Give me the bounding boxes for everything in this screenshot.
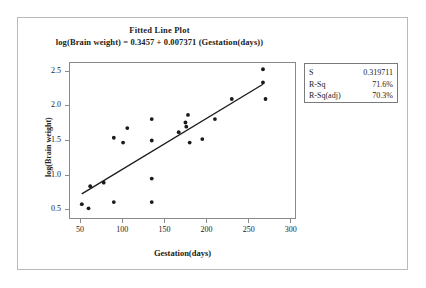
data-point — [150, 200, 154, 204]
y-axis-tick-label: 2.0 — [35, 100, 61, 109]
x-axis-tick — [80, 219, 81, 223]
data-point — [150, 139, 154, 143]
stat-row: S 0.319711 — [309, 67, 393, 79]
y-axis-tick-label: 1.0 — [35, 170, 61, 179]
x-axis-tick-label: 250 — [236, 225, 262, 234]
data-point — [261, 80, 265, 84]
data-point — [188, 141, 192, 145]
data-point — [87, 206, 91, 210]
data-point — [150, 117, 154, 121]
x-axis-label: Gestation(days) — [69, 248, 296, 258]
stat-row: R-Sq(adj) 70.3% — [309, 90, 393, 102]
chart-title: Fitted Line Plot — [17, 24, 302, 36]
data-point — [80, 202, 84, 206]
data-point — [102, 181, 106, 185]
x-axis-tick-label: 50 — [67, 225, 93, 234]
data-point — [186, 113, 190, 117]
stat-label: S — [309, 67, 313, 79]
data-point — [213, 117, 217, 121]
data-point — [121, 141, 125, 145]
stat-value: 70.3% — [372, 90, 393, 102]
y-axis-tick — [65, 140, 69, 141]
x-axis-tick — [122, 219, 123, 223]
x-axis-tick-label: 200 — [194, 225, 220, 234]
data-point — [112, 136, 116, 140]
y-axis-label: log(Brain weight) — [44, 117, 53, 177]
y-axis-tick-label: 1.5 — [35, 135, 61, 144]
y-axis-tick — [65, 175, 69, 176]
data-point — [184, 125, 188, 129]
x-axis-tick-label: 100 — [109, 225, 135, 234]
y-axis-tick — [65, 105, 69, 106]
chart-title-block: Fitted Line Plot log(Brain weight) = 0.3… — [17, 24, 302, 49]
data-point — [184, 121, 188, 125]
y-axis-tick-label: 0.5 — [35, 204, 61, 213]
stat-value: 0.319711 — [363, 67, 393, 79]
x-axis-tick — [164, 219, 165, 223]
chart-subtitle-equation: log(Brain weight) = 0.3457 + 0.007371 (G… — [17, 36, 302, 49]
data-point — [177, 130, 181, 134]
scatter-plot-svg — [70, 63, 295, 218]
data-point — [261, 67, 265, 71]
x-axis-tick — [206, 219, 207, 223]
y-axis-tick-label: 2.5 — [35, 66, 61, 75]
stat-label: R-Sq — [309, 79, 325, 91]
statistics-box: S 0.319711 R-Sq 71.6% R-Sq(adj) 70.3% — [304, 63, 398, 103]
x-axis-tick — [248, 219, 249, 223]
stat-label: R-Sq(adj) — [309, 90, 341, 102]
data-point — [264, 97, 268, 101]
data-point — [150, 177, 154, 181]
x-axis-tick-label: 150 — [151, 225, 177, 234]
y-axis-tick — [65, 209, 69, 210]
data-point — [112, 200, 116, 204]
stat-value: 71.6% — [372, 79, 393, 91]
data-point — [230, 97, 234, 101]
y-axis-tick — [65, 71, 69, 72]
data-point — [88, 184, 92, 188]
fitted-line-plot-figure: Fitted Line Plot log(Brain weight) = 0.3… — [0, 0, 426, 288]
fit-line — [82, 84, 263, 194]
regression-line — [82, 84, 263, 194]
data-point — [125, 126, 129, 130]
data-point — [200, 137, 204, 141]
stat-row: R-Sq 71.6% — [309, 79, 393, 91]
x-axis-tick — [290, 219, 291, 223]
x-axis-tick-label: 300 — [278, 225, 304, 234]
plot-area — [69, 62, 296, 219]
